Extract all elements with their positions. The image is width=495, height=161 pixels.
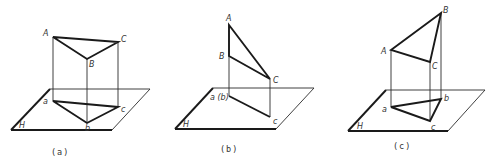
label-A: A [380,47,386,56]
label-c: c [121,105,126,114]
panel-a: A C B a c b H (a) [11,29,150,157]
label-C: C [432,62,438,71]
label-C: C [121,35,127,44]
label-c: c [273,117,278,126]
label-a: a [382,105,387,114]
label-b: b [85,124,90,133]
label-B: B [443,6,449,15]
label-plane-h: H [19,121,25,130]
label-B: B [89,60,95,69]
triangle-abc-a [53,37,118,59]
label-C: C [273,76,279,85]
label-plane-h: H [183,120,189,129]
projection-line-b [229,96,270,117]
projection-figure: A C B a c b H (a) A B C a (b) c H (b) [0,0,495,161]
caption-c: (c) [393,141,411,151]
label-A: A [42,29,48,38]
panel-b: A B C a (b) c H (b) [175,14,314,154]
triangle-abc-b [229,25,270,79]
label-c: c [431,123,436,132]
label-plane-h: H [357,122,363,131]
label-B: B [219,52,225,61]
label-a-b: a (b) [210,93,229,102]
projectors-a [53,37,118,123]
panel-c: B A C a b c H (c) [348,6,485,151]
plane-h-a [11,89,150,130]
label-b: b [444,94,449,103]
plane-h-c [348,90,485,131]
caption-b: (b) [220,144,238,154]
triangle-proj-c [391,99,441,121]
triangle-abc-c [391,13,441,62]
label-a: a [43,97,48,106]
plane-h-b [175,88,314,129]
label-A: A [225,14,231,23]
projectors-b [229,56,270,117]
triangle-proj-a [53,101,118,123]
caption-a: (a) [51,147,69,157]
